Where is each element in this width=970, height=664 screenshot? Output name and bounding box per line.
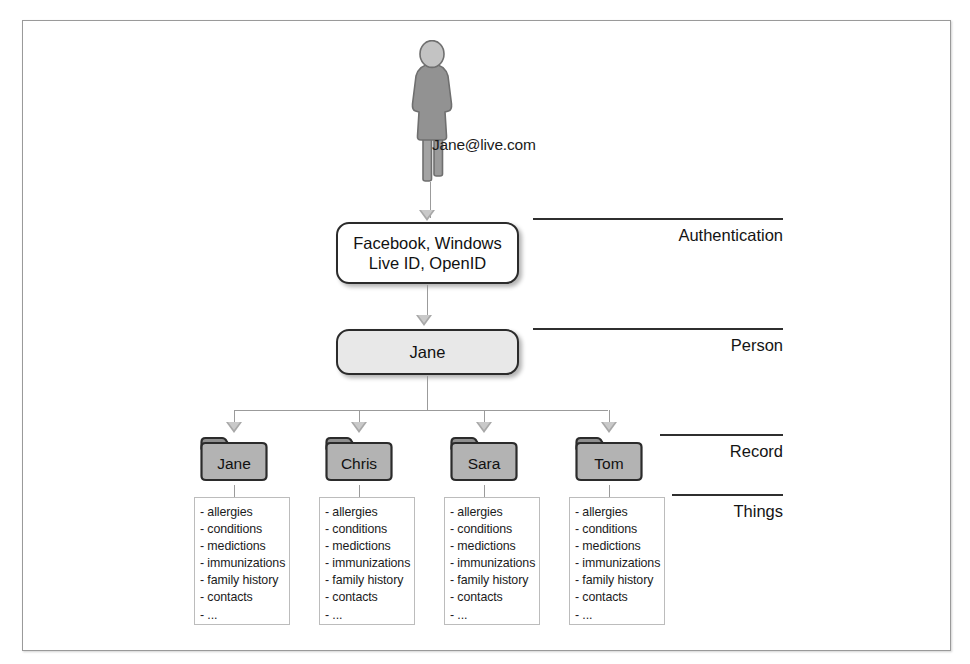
tier-label: Authentication: [678, 226, 783, 245]
connector-jane-to-things: [234, 485, 235, 497]
auth-box-line-2: Live ID, OpenID: [353, 253, 502, 273]
person-email-label: Jane@live.com: [432, 136, 536, 154]
things-list-item: - immunizations: [200, 555, 289, 572]
things-list-item: - ...: [200, 607, 289, 624]
tier-rule: [660, 434, 783, 436]
things-list-item: - contacts: [450, 589, 539, 606]
connector-record-bus: [234, 410, 608, 411]
things-list-item: - medictions: [575, 538, 664, 555]
tier-rule: [533, 328, 783, 330]
things-list-item: - allergies: [325, 504, 414, 521]
arrowhead-person-to-auth: [419, 210, 435, 221]
things-list-item: - allergies: [200, 504, 289, 521]
arrowhead-auth-to-person: [416, 315, 432, 326]
person-box[interactable]: Jane: [336, 329, 519, 375]
tier-rule: [672, 494, 783, 496]
auth-box-line-1: Facebook, Windows: [353, 233, 502, 253]
things-list-sara: - allergies- conditions- medictions- imm…: [444, 497, 540, 625]
authentication-providers-box[interactable]: Facebook, Windows Live ID, OpenID: [336, 222, 519, 284]
connector-person-to-bus: [427, 376, 428, 410]
record-folder-sara[interactable]: Sara: [448, 433, 520, 483]
things-list-item: - family history: [200, 572, 289, 589]
things-list-item: - immunizations: [325, 555, 414, 572]
person-silhouette-icon: [403, 40, 459, 185]
folder-icon: [448, 433, 520, 483]
things-list-tom: - allergies- conditions- medictions- imm…: [569, 497, 665, 625]
things-list-item: - family history: [450, 572, 539, 589]
things-list-chris: - allergies- conditions- medictions- imm…: [319, 497, 415, 625]
tier-label: Record: [730, 442, 783, 461]
record-folder-tom[interactable]: Tom: [573, 433, 645, 483]
connector-sara-to-things: [484, 485, 485, 497]
things-list-jane: - allergies- conditions- medictions- imm…: [194, 497, 290, 625]
connector-chris-to-things: [359, 485, 360, 497]
things-list-item: - medictions: [450, 538, 539, 555]
figure-canvas: Jane@live.com Facebook, Windows Live ID,…: [0, 0, 970, 664]
record-folder-jane[interactable]: Jane: [198, 433, 270, 483]
things-list-item: - contacts: [200, 589, 289, 606]
things-list-item: - allergies: [450, 504, 539, 521]
folder-icon: [573, 433, 645, 483]
folder-icon: [323, 433, 395, 483]
tier-rule: [533, 218, 783, 220]
things-list-item: - conditions: [450, 521, 539, 538]
things-list-item: - ...: [450, 607, 539, 624]
things-list-item: - ...: [325, 607, 414, 624]
connector-tom-to-things: [609, 485, 610, 497]
things-list-item: - contacts: [325, 589, 414, 606]
things-list-item: - conditions: [200, 521, 289, 538]
things-list-item: - conditions: [575, 521, 664, 538]
things-list-item: - immunizations: [450, 555, 539, 572]
tier-label: Things: [733, 502, 783, 521]
arrowhead-bus-to-sara: [476, 422, 492, 433]
arrowhead-bus-to-chris: [351, 422, 367, 433]
things-list-item: - family history: [325, 572, 414, 589]
connector-auth-to-person: [427, 285, 428, 319]
record-folder-chris[interactable]: Chris: [323, 433, 395, 483]
person-box-label: Jane: [410, 342, 446, 362]
things-list-item: - allergies: [575, 504, 664, 521]
tier-label: Person: [731, 336, 783, 355]
arrowhead-bus-to-tom: [601, 422, 617, 433]
things-list-item: - immunizations: [575, 555, 664, 572]
things-list-item: - conditions: [325, 521, 414, 538]
arrowhead-bus-to-jane: [226, 422, 242, 433]
things-list-item: - medictions: [325, 538, 414, 555]
things-list-item: - ...: [575, 607, 664, 624]
things-list-item: - contacts: [575, 589, 664, 606]
things-list-item: - medictions: [200, 538, 289, 555]
folder-icon: [198, 433, 270, 483]
things-list-item: - family history: [575, 572, 664, 589]
